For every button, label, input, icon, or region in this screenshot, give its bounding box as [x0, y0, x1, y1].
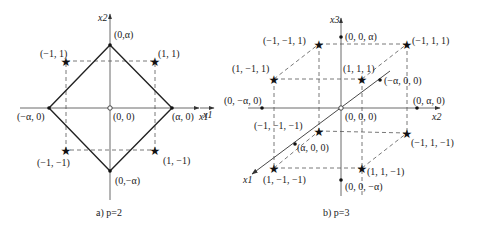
axis-point-dot: [415, 106, 419, 110]
star-label: (1, −1, 1): [232, 63, 269, 75]
star-icon: ★: [357, 162, 368, 176]
star-label: (−1, −1): [37, 157, 70, 169]
star-icon: ★: [314, 38, 325, 52]
x3-axis-label: x3: [329, 14, 339, 25]
star-label: (−1, −1, 1): [263, 35, 306, 47]
axis-point-label: (0, 0, α): [345, 31, 377, 43]
vertex-label-left: (−α, 0): [17, 111, 45, 123]
figure-canvas: x1 x2 (0,α) (α, 0) (0,−α) (−α, 0) (0, 0)…: [0, 0, 477, 235]
axis-point-dot: [339, 35, 343, 39]
star-label: (1, 1): [158, 48, 180, 60]
star-icon: ★: [61, 144, 72, 158]
star-icon: ★: [314, 125, 325, 139]
origin-label: (0, 0): [113, 111, 135, 123]
vertex-label-top: (0,α): [114, 29, 133, 41]
star-label: (−1, 1): [40, 48, 67, 60]
x2-axis-label: x2: [97, 12, 107, 23]
star-label: (1, 1, 1): [343, 63, 375, 75]
axis-point-label: (−α, 0, 0): [384, 75, 422, 87]
x1-stub-label: x1: [202, 109, 212, 120]
star-label: (1, −1): [163, 155, 190, 167]
star-label: (−1, 1, −1): [411, 137, 454, 149]
star-label: (1, −1, −1): [263, 174, 306, 186]
star-label: (−1, 1, 1): [412, 35, 449, 47]
axis-point-label: (0, 0, −α): [345, 181, 383, 193]
origin-marker: [108, 106, 112, 110]
diagram-a: x1 x2 (0,α) (α, 0) (0,−α) (−α, 0) (0, 0)…: [17, 12, 208, 219]
vertex-dot-bottom: [108, 169, 112, 173]
axis-point-label: (0, −α, 0): [224, 95, 262, 107]
star-icon: ★: [269, 73, 280, 87]
axis-point-dot: [378, 78, 382, 82]
vertex-dot-right: [170, 106, 174, 110]
caption-b: b) p=3: [323, 207, 349, 219]
star-label: (−1, −1, −1): [254, 120, 303, 132]
x2-axis-label: x2: [431, 111, 441, 122]
vertex-dot-top: [108, 43, 112, 47]
star-label: (1, 1, −1): [367, 166, 404, 178]
star-icon: ★: [402, 38, 413, 52]
vertex-label-bottom: (0,−α): [115, 175, 140, 187]
diagram-b: x3 x2 x1 x1: [200, 14, 454, 219]
caption-a: a) p=2: [96, 207, 122, 219]
vertex-dot-left: [47, 106, 51, 110]
axis-point-label: (0, α, 0): [413, 95, 445, 107]
axis-point-label: (α, 0, 0): [297, 142, 329, 154]
axis-point-dot: [260, 106, 264, 110]
star-icon: ★: [357, 73, 368, 87]
origin-label: (0, 0, 0): [345, 111, 377, 123]
star-icon: ★: [150, 144, 161, 158]
vertex-label-right: (α, 0): [172, 111, 194, 123]
axis-point-dot: [339, 178, 343, 182]
x1-axis-label: x1: [242, 174, 252, 185]
origin-marker: [339, 106, 343, 110]
